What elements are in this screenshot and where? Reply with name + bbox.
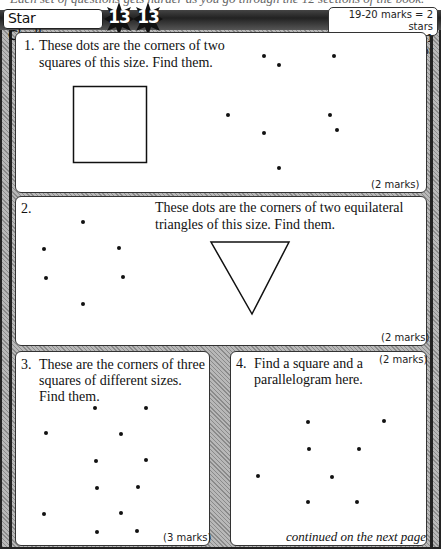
grid-dot (119, 432, 123, 436)
question-3-marks: (3 marks) (163, 532, 211, 543)
question-2-text-line2: triangles of this size. Find them. (155, 217, 335, 233)
question-3-number: 3. (21, 357, 32, 373)
question-2-marks: (2 marks) (381, 332, 429, 343)
question-4-number: 4. (236, 356, 247, 372)
grid-dot (119, 511, 123, 515)
continued-note: continued on the next page (286, 529, 426, 545)
question-4-text-line2: parallelogram here. (254, 372, 363, 388)
question-3-text-line2: squares of different sizes. (39, 373, 182, 389)
frame-rule-left (9, 22, 12, 549)
star-badge: 13 (133, 2, 163, 36)
question-2-text-line1: These dots are the corners of two equila… (155, 200, 403, 216)
grid-dot (330, 475, 334, 479)
grid-dot (306, 420, 310, 424)
grid-dot (42, 512, 46, 516)
grid-dot (42, 247, 46, 251)
grid-dot (81, 302, 85, 306)
grid-dot (81, 220, 85, 224)
grid-dot (357, 447, 361, 451)
grid-dot (94, 459, 98, 463)
grid-dot (328, 113, 332, 117)
grid-dot (307, 447, 311, 451)
question-2-number: 2. (21, 201, 32, 217)
grid-dot (277, 166, 281, 170)
grid-dot (95, 530, 99, 534)
question-1-number: 1. (24, 38, 35, 54)
grid-dot (117, 246, 121, 250)
grid-dot (306, 500, 310, 504)
question-4-text-line1: Find a square and a (254, 356, 363, 372)
grid-dot (144, 406, 148, 410)
question-4-marks: (2 marks) (379, 354, 427, 365)
grid-dot (44, 276, 48, 280)
question-1-text-line2: squares of this size. Find them. (39, 55, 213, 71)
grid-dot (44, 431, 48, 435)
grid-dot (335, 128, 339, 132)
page-title: Star Challenge (3, 9, 103, 29)
star-level-number: 13 (133, 7, 163, 27)
question-1-text-line1: These dots are the corners of two (39, 38, 225, 54)
grid-dot (262, 54, 266, 58)
question-3-text-line1: These are the corners of three (39, 357, 205, 373)
star-level-number: 13 (104, 7, 134, 27)
grid-dot (95, 486, 99, 490)
grid-dot (382, 419, 386, 423)
grid-dot (355, 500, 359, 504)
scoring-line-2-stars: 19-20 marks = 2 stars (329, 9, 433, 33)
grid-dot (256, 474, 260, 478)
question-3-text-line3: Find them. (39, 389, 100, 405)
grid-dot (262, 131, 266, 135)
grid-dot (121, 275, 125, 279)
question-1-marks: (2 marks) (371, 179, 419, 190)
star-badge: 13 (104, 2, 134, 36)
grid-dot (135, 529, 139, 533)
grid-dot (226, 113, 230, 117)
grid-dot (144, 458, 148, 462)
grid-dot (332, 54, 336, 58)
frame-rule-right (430, 22, 433, 549)
grid-dot (277, 63, 281, 67)
grid-dot (93, 406, 97, 410)
grid-dot (136, 485, 140, 489)
cut-off-instruction-text: Each set of questions gets harder as you… (10, 0, 424, 7)
